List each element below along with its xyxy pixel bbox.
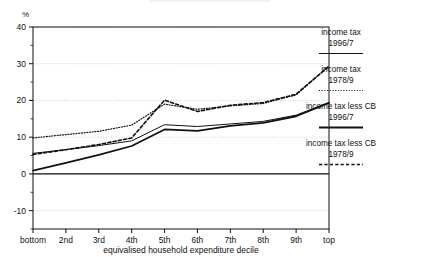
x-tick-label-9th: 9th <box>290 235 302 245</box>
chart-figure: % -10010203040 bottom2nd3rd4th5th6th7th8… <box>0 0 421 276</box>
x-tick-label-4th: 4th <box>126 235 138 245</box>
y-tick-label--10: -10 <box>14 206 27 216</box>
x-tick-label-bottom: bottom <box>20 235 46 245</box>
x-tick-label-3rd: 3rd <box>93 235 106 245</box>
y-tick-label-40: 40 <box>17 22 27 32</box>
line-chart-svg: % -10010203040 bottom2nd3rd4th5th6th7th8… <box>0 0 421 276</box>
legend-label-line2-2: 1996/7 <box>328 113 353 122</box>
legend-label-line1-2: income tax less CB <box>306 102 377 111</box>
y-axis-unit-label: % <box>22 10 29 19</box>
legend-label-line2-0: 1996/7 <box>328 39 353 48</box>
x-tick-label-2nd: 2nd <box>59 235 73 245</box>
x-tick-label-6th: 6th <box>192 235 204 245</box>
y-tick-label-20: 20 <box>17 95 27 105</box>
x-tick-label-8th: 8th <box>257 235 269 245</box>
y-tick-label-10: 10 <box>17 132 27 142</box>
legend-label-line1-0: income tax <box>321 28 361 37</box>
x-tick-label-5th: 5th <box>159 235 171 245</box>
x-tick-label-top: top <box>323 235 335 245</box>
legend-label-line1-3: income tax less CB <box>306 139 377 148</box>
legend-label-line1-1: income tax <box>321 65 361 74</box>
legend-label-line2-3: 1978/9 <box>328 150 353 159</box>
x-tick-label-7th: 7th <box>224 235 236 245</box>
x-axis-title: equivalised household expenditure decile <box>103 245 259 255</box>
clipped-title-fragment <box>150 0 270 2</box>
y-tick-label-30: 30 <box>17 59 27 69</box>
y-tick-label-0: 0 <box>21 169 26 179</box>
legend-label-line2-1: 1978/9 <box>328 76 353 85</box>
